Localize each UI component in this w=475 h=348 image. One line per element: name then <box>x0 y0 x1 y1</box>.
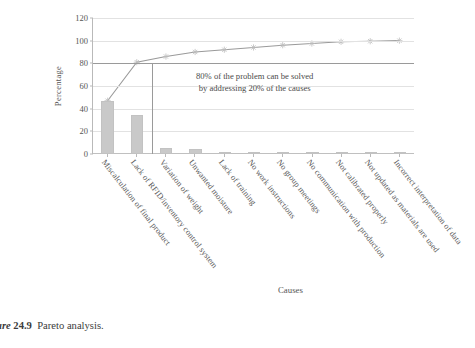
pareto-figure: Percentage 020406080100120 80% of the pr… <box>0 0 475 348</box>
bar <box>131 115 143 154</box>
cumulative-point-marker <box>221 47 227 53</box>
x-axis-tick-mark <box>341 154 342 157</box>
y-axis-tick-label: 0 <box>84 149 88 159</box>
y-axis-title: Percentage <box>53 66 63 106</box>
x-axis-tick-mark <box>194 154 195 157</box>
y-axis-tick-label: 20 <box>80 126 89 136</box>
y-axis-tick-mark <box>90 108 93 109</box>
y-axis-tick-mark <box>90 131 93 132</box>
bar <box>277 152 289 154</box>
80-percent-line <box>93 63 414 64</box>
x-axis-title: Causes <box>278 285 303 295</box>
20-percent-causes-line <box>152 63 153 154</box>
x-axis-tick-mark <box>312 154 313 157</box>
x-axis-tick-mark <box>107 154 108 157</box>
x-axis-tick-mark <box>370 154 371 157</box>
y-axis-tick-label: 120 <box>75 13 88 23</box>
figure-caption: ure 24.9 Pareto analysis. <box>0 320 104 331</box>
y-axis-tick-label: 80 <box>80 58 89 68</box>
pareto-annotation: 80% of the problem can be solved by addr… <box>196 70 313 94</box>
caption-prefix: ure <box>0 320 11 331</box>
bar <box>365 152 377 154</box>
gridline <box>93 18 414 19</box>
y-axis-tick-mark <box>90 18 93 19</box>
x-axis-tick-mark <box>253 154 254 157</box>
cumulative-point-marker <box>134 59 140 65</box>
cumulative-point-marker <box>163 53 169 59</box>
y-axis-tick-mark <box>90 40 93 41</box>
y-axis-tick-label: 40 <box>80 104 89 114</box>
bar <box>306 152 318 154</box>
x-axis-tick-mark <box>136 154 137 157</box>
caption-number: 24.9 <box>11 320 32 331</box>
y-axis-tick-mark <box>90 86 93 87</box>
x-axis-tick-mark <box>165 154 166 157</box>
cumulative-point-marker <box>250 44 256 50</box>
y-axis-tick-mark <box>90 154 93 155</box>
bar <box>219 152 231 154</box>
bar <box>160 148 172 154</box>
cumulative-point-marker <box>192 49 198 55</box>
bar <box>101 101 113 154</box>
cumulative-point-marker <box>338 39 344 45</box>
gridline <box>93 109 414 110</box>
x-axis-tick-mark <box>224 154 225 157</box>
x-axis-tick-label: Not calibrated properly <box>334 158 390 226</box>
annotation-line-1: 80% of the problem can be solved <box>196 70 313 82</box>
y-axis-tick-label: 100 <box>75 36 88 46</box>
x-axis-tick-mark <box>399 154 400 157</box>
y-axis-tick-label: 60 <box>80 81 89 91</box>
annotation-line-2: by addressing 20% of the causes <box>196 82 313 94</box>
x-axis-tick-mark <box>282 154 283 157</box>
gridline <box>93 41 414 42</box>
caption-text: Pareto analysis. <box>37 320 104 331</box>
cumulative-point-marker <box>280 42 286 48</box>
